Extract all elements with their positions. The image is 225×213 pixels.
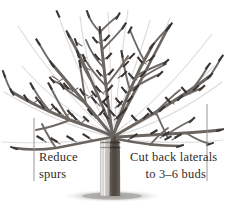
annotation-reduce-spurs-line1: Reduce (39, 149, 78, 166)
pruning-cut-marks (3, 10, 224, 149)
pruning-diagram-figure: Reduce spurs Cut back laterals to 3–6 bu… (0, 0, 225, 213)
scaffold-branches (12, 28, 220, 150)
annotation-reduce-spurs: Reduce spurs (39, 149, 78, 183)
annotation-cut-back-laterals-line2: to 3–6 buds (130, 166, 206, 183)
annotation-cut-back-laterals: Cut back laterals to 3–6 buds (130, 149, 206, 183)
annotation-cut-back-laterals-line1: Cut back laterals (130, 149, 206, 166)
annotation-reduce-spurs-line2: spurs (39, 166, 78, 183)
